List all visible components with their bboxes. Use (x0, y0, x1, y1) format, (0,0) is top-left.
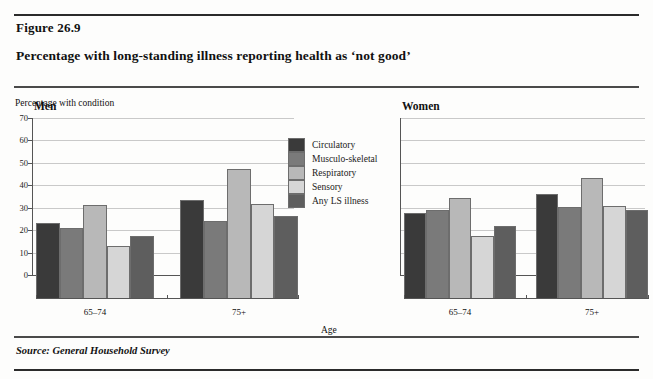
y-tick-label-20: 20 (6, 225, 28, 235)
bar (449, 198, 471, 299)
title-divider-rule (14, 86, 639, 88)
bar (404, 213, 426, 299)
bar-slot (130, 142, 154, 299)
bar-slot (581, 142, 603, 299)
legend-swatch (288, 138, 305, 152)
x-axis-end-tick (648, 295, 649, 299)
bar (130, 236, 154, 299)
bar-slot (471, 142, 493, 299)
y-tick-label-40: 40 (6, 180, 28, 190)
chart-panel-men: Men 01020304050607065–7475+ (32, 118, 294, 323)
legend-label: Respiratory (312, 168, 356, 178)
bar (603, 206, 625, 299)
bar (83, 205, 107, 299)
bar (558, 207, 580, 299)
bar-slot (60, 142, 84, 299)
x-tick-label: 65–74 (449, 307, 472, 317)
y-tick-60 (28, 140, 32, 141)
y-tick-40 (28, 185, 32, 186)
legend-swatch (288, 180, 305, 194)
legend-item: Circulatory (288, 138, 377, 152)
legend-item: Musculo-skeletal (288, 152, 377, 166)
gridline-70 (32, 118, 294, 119)
figure-container: Figure 26.9 Percentage with long-standin… (0, 0, 653, 379)
bar (426, 210, 448, 299)
x-axis-line (36, 298, 298, 299)
x-tick-label: 75+ (232, 307, 246, 317)
x-tick-label: 65–74 (84, 307, 107, 317)
bar-slot (558, 142, 580, 299)
legend-item: Respiratory (288, 166, 377, 180)
y-tick-20 (28, 230, 32, 231)
panel-title-men: Men (34, 100, 56, 112)
y-tick-label-10: 10 (6, 248, 28, 258)
bar-slot (449, 142, 471, 299)
bar-group (36, 142, 154, 299)
y-tick-10 (28, 253, 32, 254)
bar (204, 221, 228, 300)
bar (626, 210, 648, 299)
y-axis-line (400, 118, 401, 275)
x-axis-title: Age (321, 325, 337, 335)
bar (36, 223, 60, 299)
bar-group (536, 142, 648, 299)
bar-slot (494, 142, 516, 299)
bar-slot (180, 142, 204, 299)
bar-slot (227, 142, 251, 299)
legend-swatch (288, 152, 305, 166)
figure-title: Percentage with long-standing illness re… (16, 48, 411, 64)
bar-slot (626, 142, 648, 299)
source-divider-rule (14, 336, 639, 338)
top-rule (14, 14, 639, 16)
bar-slot (251, 142, 275, 299)
bar (107, 246, 131, 299)
y-tick-30 (28, 208, 32, 209)
bar-slot (536, 142, 558, 299)
gridline-70 (400, 118, 645, 119)
bar-slot (83, 142, 107, 299)
bar-group (180, 142, 298, 299)
figure-number: Figure 26.9 (16, 20, 81, 36)
chart-panel-women: Women 65–7475+ (400, 118, 645, 323)
y-tick-label-60: 60 (6, 135, 28, 145)
y-tick-label-70: 70 (6, 113, 28, 123)
legend-label: Circulatory (312, 140, 355, 150)
bar (581, 178, 603, 299)
y-tick-label-50: 50 (6, 158, 28, 168)
legend-swatch (288, 166, 305, 180)
y-axis-line (32, 118, 33, 275)
source-note: Source: General Household Survey (16, 345, 170, 356)
bar (227, 169, 251, 299)
y-axis-title: Percentage with condition (15, 98, 114, 108)
x-axis-end-tick (298, 295, 299, 299)
y-tick-label-0: 0 (6, 270, 28, 280)
y-tick-label-30: 30 (6, 203, 28, 213)
x-tick-label: 75+ (585, 307, 599, 317)
bar-slot (404, 142, 426, 299)
bar (180, 200, 204, 299)
y-tick-0 (28, 275, 32, 276)
y-tick-70 (28, 118, 32, 119)
legend-label: Sensory (312, 182, 343, 192)
bar-slot (603, 142, 625, 299)
chart-legend: CirculatoryMusculo-skeletalRespiratorySe… (288, 138, 377, 208)
legend-label: Any LS illness (312, 196, 368, 206)
bar (536, 194, 558, 299)
bar (274, 216, 298, 299)
bar (471, 236, 493, 299)
bar (494, 226, 516, 299)
legend-item: Any LS illness (288, 194, 377, 208)
legend-label: Musculo-skeletal (312, 154, 377, 164)
bar-slot (426, 142, 448, 299)
panel-title-women: Women (402, 100, 440, 112)
y-tick-50 (28, 163, 32, 164)
bar-slot (107, 142, 131, 299)
bar (251, 204, 275, 299)
x-axis-line (404, 298, 648, 299)
y-axis-tick-labels: 010203040506070 (4, 118, 28, 299)
bar-slot (204, 142, 228, 299)
bar-slot (36, 142, 60, 299)
bar (60, 228, 84, 299)
legend-item: Sensory (288, 180, 377, 194)
legend-swatch (288, 194, 305, 208)
